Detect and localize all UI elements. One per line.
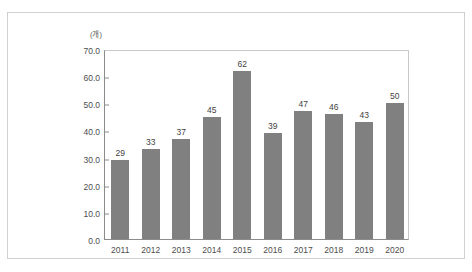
bar[interactable]: 46 <box>325 114 343 239</box>
bar-value-label: 50 <box>390 91 399 101</box>
bar-value-label: 37 <box>177 127 186 137</box>
y-axis-tick-label: 50.0 <box>83 100 100 110</box>
x-axis-tick-label: 2016 <box>263 245 282 255</box>
bar-group: 392016 <box>258 51 289 239</box>
bar-value-label: 29 <box>116 148 125 158</box>
chart-frame: (개) 70.060.050.040.030.020.010.00.0 2920… <box>7 12 465 259</box>
bar-group: 432019 <box>349 51 380 239</box>
bar[interactable]: 62 <box>233 71 251 239</box>
bar-value-label: 62 <box>238 59 247 69</box>
x-axis-tick-label: 2020 <box>385 245 404 255</box>
bar-group: 502020 <box>380 51 411 239</box>
bar[interactable]: 29 <box>111 160 129 239</box>
bar-value-label: 39 <box>268 121 277 131</box>
x-axis-tick-label: 2019 <box>355 245 374 255</box>
bar-group: 372013 <box>166 51 197 239</box>
x-axis-tick-label: 2015 <box>233 245 252 255</box>
bar-group: 472017 <box>288 51 319 239</box>
y-axis-tick-label: 40.0 <box>83 127 100 137</box>
y-axis-tick-label: 10.0 <box>83 209 100 219</box>
x-axis-tick-label: 2014 <box>202 245 221 255</box>
bar-value-label: 46 <box>329 102 338 112</box>
y-axis-tick-label: 0.0 <box>88 236 100 246</box>
y-axis-tick-label: 30.0 <box>83 155 100 165</box>
x-axis-tick-label: 2013 <box>172 245 191 255</box>
bar-group: 292011 <box>105 51 136 239</box>
bar-group: 622015 <box>227 51 258 239</box>
bar[interactable]: 45 <box>203 117 221 239</box>
bar-value-label: 33 <box>146 137 155 147</box>
x-axis-tick-label: 2018 <box>324 245 343 255</box>
bar[interactable]: 43 <box>355 122 373 239</box>
plot-area: 70.060.050.040.030.020.010.00.0 29201133… <box>104 50 409 240</box>
x-axis-tick-label: 2012 <box>141 245 160 255</box>
x-axis-tick-label: 2017 <box>294 245 313 255</box>
x-axis-tick-label: 2011 <box>111 245 129 255</box>
bar[interactable]: 50 <box>386 103 404 239</box>
bar-group: 332012 <box>136 51 167 239</box>
bar-value-label: 45 <box>207 105 216 115</box>
y-axis-tick-label: 60.0 <box>83 73 100 83</box>
y-axis-unit-label: (개) <box>90 28 102 39</box>
bar[interactable]: 33 <box>142 149 160 239</box>
bar-group: 462018 <box>319 51 350 239</box>
bar-group: 452014 <box>197 51 228 239</box>
y-axis-tick-label: 70.0 <box>83 46 100 56</box>
bar[interactable]: 39 <box>264 133 282 239</box>
bar[interactable]: 47 <box>294 111 312 239</box>
y-axis-tick-label: 20.0 <box>83 182 100 192</box>
bar[interactable]: 37 <box>172 139 190 239</box>
bar-value-label: 43 <box>360 110 369 120</box>
bar-value-label: 47 <box>299 99 308 109</box>
